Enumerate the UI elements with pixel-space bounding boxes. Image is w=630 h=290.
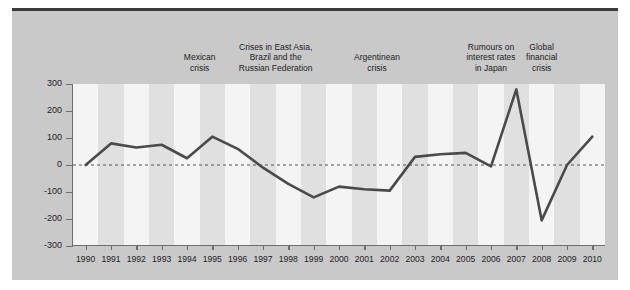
y-axis-tick (66, 84, 73, 85)
plot-band (402, 84, 427, 246)
y-axis-tick-label: 0 (12, 159, 62, 169)
plot-band (453, 84, 478, 246)
chart-screenshot: MexicancrisisCrises in East Asia,Brazil … (0, 0, 630, 290)
y-axis-tick (66, 246, 73, 247)
plot-band (504, 84, 529, 246)
y-axis-tick (66, 138, 73, 139)
y-axis-tick-label: 200 (12, 105, 62, 115)
x-axis-tick (592, 245, 593, 250)
crisis-annotation: Crises in East Asia,Brazil and theRussia… (228, 42, 324, 74)
x-axis-tick (187, 245, 188, 250)
x-axis-tick (491, 245, 492, 250)
y-axis-tick (66, 165, 73, 166)
x-axis-tick (111, 245, 112, 250)
annotation-line: financial (494, 52, 590, 63)
x-axis-tick (567, 245, 568, 250)
y-axis-tick (66, 192, 73, 193)
plot-band (301, 84, 326, 246)
x-axis-tick (136, 245, 137, 250)
y-axis-tick-label: -300 (12, 240, 62, 250)
x-axis-tick (364, 245, 365, 250)
plot-band (98, 84, 123, 246)
x-axis-tick (516, 245, 517, 250)
x-axis-tick (440, 245, 441, 250)
plot-band (352, 84, 377, 246)
annotation-line: Crises in East Asia, (228, 42, 324, 53)
x-axis-tick (86, 245, 87, 250)
x-axis-tick (415, 245, 416, 250)
x-axis-tick-label: 2010 (572, 254, 612, 264)
annotation-line: Global (494, 42, 590, 53)
annotation-line: Russian Federation (228, 63, 324, 74)
plot-band (200, 84, 225, 246)
chart-frame: MexicancrisisCrises in East Asia,Brazil … (12, 8, 618, 280)
x-axis-tick (288, 245, 289, 250)
annotation-line: crisis (494, 63, 590, 74)
x-axis-tick (162, 245, 163, 250)
annotation-band: MexicancrisisCrises in East Asia,Brazil … (12, 11, 618, 83)
x-axis-tick (542, 245, 543, 250)
x-axis-tick (238, 245, 239, 250)
plot-band (149, 84, 174, 246)
annotation-line: Brazil and the (228, 52, 324, 63)
crisis-annotation: Globalfinancialcrisis (494, 42, 590, 74)
y-axis-tick-label: 100 (12, 132, 62, 142)
plot-band (554, 84, 579, 246)
y-axis-tick-label: -100 (12, 186, 62, 196)
x-axis-tick (466, 245, 467, 250)
x-axis-tick (339, 245, 340, 250)
annotation-line: Argentinean (329, 52, 425, 63)
x-axis-tick (263, 245, 264, 250)
x-axis-tick (314, 245, 315, 250)
annotation-line: crisis (329, 63, 425, 74)
y-axis-tick (66, 111, 73, 112)
y-axis-tick (66, 219, 73, 220)
y-axis-tick-label: 300 (12, 78, 62, 88)
y-axis-tick-label: -200 (12, 213, 62, 223)
x-axis-tick (212, 245, 213, 250)
plot-band (250, 84, 275, 246)
plot-area (73, 84, 605, 246)
x-axis-tick (390, 245, 391, 250)
crisis-annotation: Argentineancrisis (329, 52, 425, 73)
